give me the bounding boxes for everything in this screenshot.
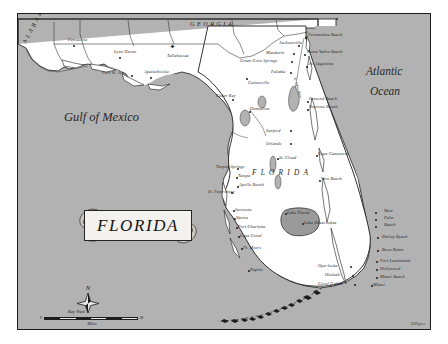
city-dot-port-st-joe — [131, 75, 133, 77]
city-dot-hialeah — [352, 275, 354, 277]
capital-star-icon: ✦ — [169, 44, 176, 51]
city-dot-vero-beach — [319, 180, 321, 182]
city-dot-port-charlotte — [236, 227, 238, 229]
city-dot-fort-lauderdale — [376, 261, 378, 263]
city-dot-naples — [248, 270, 250, 272]
city-dot-venice — [234, 218, 236, 220]
city-dot-fernandina-beach — [305, 37, 307, 39]
city-dot-green-cove-springs — [291, 61, 293, 63]
city-dot-sarasota — [233, 210, 235, 212]
city-dot-boca-raton — [377, 250, 379, 252]
city-dot-palm — [375, 219, 377, 221]
title-cartouche: FLORIDA — [76, 207, 200, 245]
florida-map: PensacolaLynn HavenPort St. JoeApalachic… — [0, 0, 448, 344]
scale-bar: 0 80 Miles — [40, 317, 144, 330]
city-dot-dunnellon — [249, 111, 251, 113]
city-dot-ormond-beach — [307, 101, 309, 103]
scale-start-label: 0 — [40, 316, 42, 320]
city-dot-st-augustine — [306, 66, 308, 68]
city-dot-cape-coral — [238, 236, 240, 238]
city-dot-pensacola — [73, 45, 75, 47]
city-dot-opa-locka — [350, 266, 352, 268]
city-dot-miami — [371, 285, 373, 287]
city-dot-cape-canaveral — [316, 155, 318, 157]
city-dot-orlando — [290, 143, 292, 145]
city-dot-daytona-beach — [307, 109, 309, 111]
city-dot-sanford — [290, 130, 292, 132]
city-dot-st-cloud — [277, 158, 279, 160]
city-dot-st-petersburg — [231, 192, 233, 194]
city-dot-ft-myers — [241, 248, 243, 250]
compass-north-label: N — [76, 284, 100, 291]
city-dot-lynn-haven — [119, 57, 121, 59]
city-dot-beach — [375, 226, 377, 228]
city-dot-cedar-key — [232, 99, 234, 101]
compass-rose: N — [76, 284, 100, 314]
city-dot-jacksonville — [298, 45, 300, 47]
city-dot-west — [375, 212, 377, 214]
city-dot-miami-beach — [376, 277, 378, 279]
map-geography — [18, 14, 429, 328]
city-dot-lake-okeechobee — [302, 223, 304, 225]
scale-bar-segments — [44, 317, 138, 320]
city-dot-mandarin — [293, 53, 295, 55]
city-dot-gainesville — [246, 78, 248, 80]
map-frame: PensacolaLynn HavenPort St. JoeApalachic… — [17, 13, 431, 330]
city-dot-tampa — [236, 177, 238, 179]
map-title: FLORIDA — [84, 210, 192, 241]
city-dot-ponte-vedra-beach — [304, 54, 306, 56]
scale-caption: Miles — [40, 321, 144, 326]
city-dot-palatka — [290, 72, 292, 74]
city-dot-coral-gables — [354, 284, 356, 286]
city-dot-apalachicola — [150, 77, 152, 79]
city-dot-hollywood — [376, 269, 378, 271]
city-dot-apollo-beach — [237, 186, 239, 188]
city-dot-delray-beach — [377, 237, 379, 239]
city-dot-tarpon-springs — [237, 168, 239, 170]
scale-end-label: 80 — [140, 316, 143, 320]
city-dot-lake-placid — [285, 213, 287, 215]
compass-star-icon — [76, 292, 100, 314]
lake-okeechobee — [281, 208, 320, 236]
